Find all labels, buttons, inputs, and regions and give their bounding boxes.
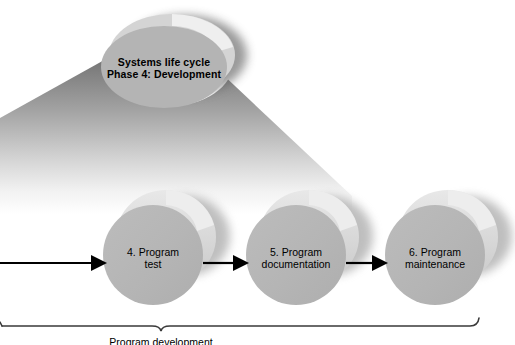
brace-caption: Program development	[101, 336, 221, 345]
systems-life-cycle-diagram: Systems life cyclePhase 4: Development 4…	[0, 0, 515, 345]
grouping-brace	[0, 318, 479, 331]
arrow-into-step-4	[0, 255, 107, 271]
step-node-program-maintenance	[385, 190, 498, 305]
diagram-canvas	[0, 0, 515, 345]
